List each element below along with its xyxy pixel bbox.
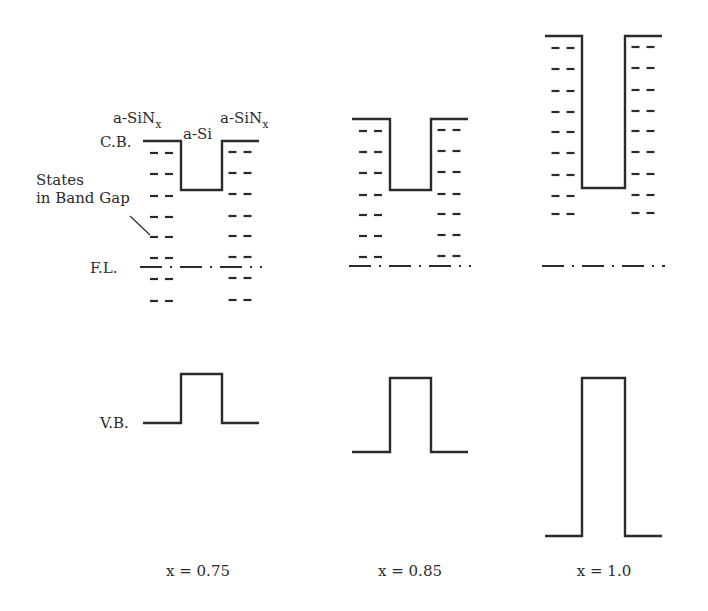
conduction-band-p2 <box>352 119 468 190</box>
conduction-band-p1 <box>143 141 259 190</box>
states-pointer-line <box>130 216 150 235</box>
valence-band-p1 <box>143 374 259 423</box>
caption-x-0-75: x = 0.75 <box>166 562 230 580</box>
states-label-line1: States <box>36 171 84 189</box>
caption-x-0-85: x = 0.85 <box>378 562 442 580</box>
caption-x-1-0: x = 1.0 <box>577 562 631 580</box>
right-layer-label: a-SiNx <box>220 109 269 131</box>
valence-band-p3 <box>545 378 662 536</box>
states-label-line2: in Band Gap <box>36 189 130 207</box>
band-diagram: a-SiNx a-SiNx a-Si C.B. States in Band G… <box>0 0 708 611</box>
well-layer-label: a-Si <box>183 125 212 143</box>
cb-label: C.B. <box>100 133 132 151</box>
valence-band-p2 <box>352 378 468 452</box>
left-layer-label: a-SiNx <box>113 109 162 131</box>
fl-label: F.L. <box>90 259 118 277</box>
vb-label: V.B. <box>99 414 129 432</box>
conduction-band-p3 <box>545 36 662 188</box>
